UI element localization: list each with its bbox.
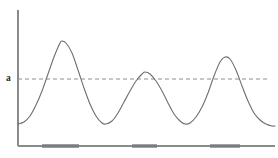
signal-curve [18,41,275,126]
chart-canvas [0,0,278,158]
curve-group [18,41,275,126]
threshold-chart-figure: a [0,0,278,158]
threshold-level-label: a [6,74,11,84]
axes-group [18,10,275,146]
